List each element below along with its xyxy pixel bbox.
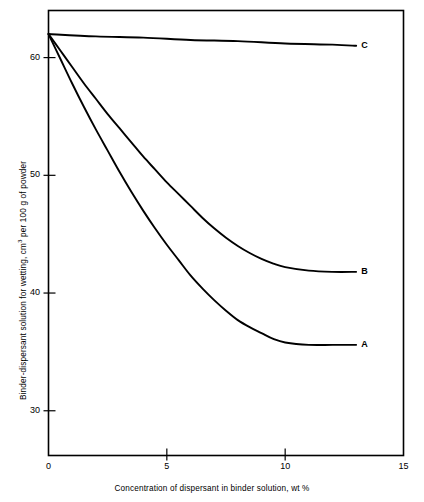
x-tick-label: 10 (270, 461, 300, 471)
chart-figure: 30405060 051015 ABC Binder-dispersant so… (0, 0, 424, 502)
curve-label-b: B (361, 266, 368, 276)
y-tick-label: 40 (16, 287, 40, 297)
curve-label-c: C (361, 40, 368, 50)
y-tick-label: 50 (16, 169, 40, 179)
x-tick-label: 0 (34, 461, 64, 471)
x-axis-label: Concentration of dispersant in binder so… (0, 484, 424, 493)
y-tick-label: 60 (16, 52, 40, 62)
x-tick-label: 15 (389, 461, 419, 471)
plot-frame (49, 11, 404, 456)
y-tick-label: 30 (16, 405, 40, 415)
curve-label-a: A (361, 339, 368, 349)
x-tick-label: 5 (152, 461, 182, 471)
chart-plot-area (0, 0, 424, 502)
